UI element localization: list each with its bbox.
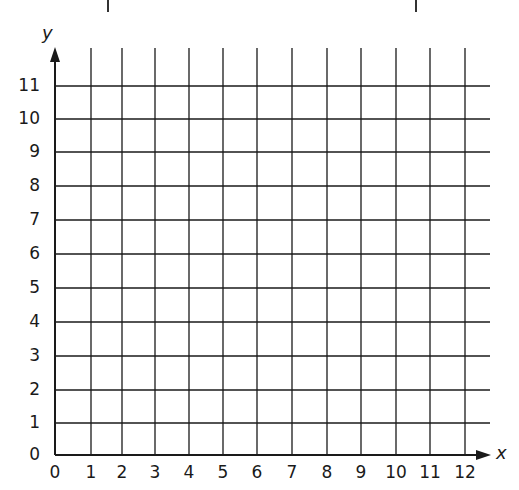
x-tick-label: 3 (140, 464, 170, 481)
x-tick-label: 7 (277, 464, 307, 481)
x-tick-label: 10 (381, 464, 411, 481)
y-tick-label: 10 (14, 110, 40, 127)
y-tick-label: 6 (14, 245, 40, 262)
x-tick-label: 4 (174, 464, 204, 481)
coordinate-grid (0, 0, 519, 490)
y-tick-label: 3 (14, 347, 40, 364)
y-tick-label: 5 (14, 279, 40, 296)
x-tick-label: 2 (107, 464, 137, 481)
y-tick-label: 7 (14, 211, 40, 228)
y-tick-label: 0 (14, 446, 40, 463)
x-tick-label: 9 (346, 464, 376, 481)
y-tick-label: 11 (14, 77, 40, 94)
x-tick-label: 1 (76, 464, 106, 481)
x-tick-label: 11 (415, 464, 445, 481)
x-tick-label: 5 (208, 464, 238, 481)
x-tick-label: 8 (312, 464, 342, 481)
y-tick-label: 2 (14, 381, 40, 398)
y-axis-name: y (42, 24, 53, 42)
y-tick-label: 4 (14, 313, 40, 330)
y-axis-arrow-icon (50, 47, 60, 62)
x-tick-label: 6 (242, 464, 272, 481)
y-tick-label: 9 (14, 143, 40, 160)
x-tick-label: 12 (450, 464, 480, 481)
x-tick-label: 0 (40, 464, 70, 481)
x-axis-name: x (496, 444, 507, 462)
y-tick-label: 8 (14, 177, 40, 194)
y-tick-label: 1 (14, 414, 40, 431)
x-axis-arrow-icon (476, 450, 491, 460)
